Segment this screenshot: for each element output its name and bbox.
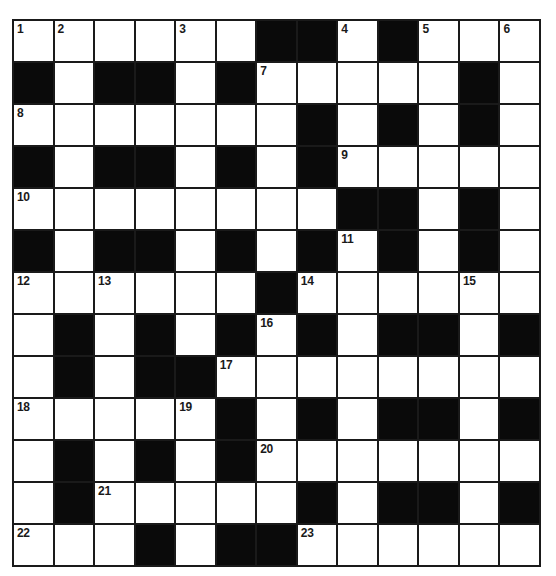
crossword-cell[interactable] <box>55 147 94 187</box>
crossword-cell[interactable] <box>338 357 377 397</box>
crossword-cell[interactable] <box>257 231 296 271</box>
crossword-cell[interactable]: 11 <box>338 231 377 271</box>
crossword-cell[interactable] <box>338 273 377 313</box>
crossword-cell[interactable] <box>500 189 539 229</box>
crossword-cell[interactable] <box>95 399 134 439</box>
crossword-cell[interactable] <box>257 357 296 397</box>
crossword-cell[interactable] <box>500 231 539 271</box>
crossword-cell[interactable] <box>95 21 134 61</box>
crossword-cell[interactable] <box>298 189 337 229</box>
crossword-cell[interactable]: 10 <box>14 189 53 229</box>
crossword-cell[interactable] <box>55 399 94 439</box>
crossword-cell[interactable]: 18 <box>14 399 53 439</box>
crossword-cell[interactable] <box>176 525 215 565</box>
crossword-cell[interactable] <box>176 315 215 355</box>
crossword-cell[interactable]: 12 <box>14 273 53 313</box>
crossword-cell[interactable] <box>176 441 215 481</box>
crossword-cell[interactable] <box>136 105 175 145</box>
crossword-cell[interactable] <box>460 441 499 481</box>
crossword-cell[interactable] <box>338 483 377 523</box>
crossword-cell[interactable] <box>55 525 94 565</box>
crossword-cell[interactable] <box>217 21 256 61</box>
crossword-cell[interactable] <box>338 399 377 439</box>
crossword-cell[interactable] <box>419 273 458 313</box>
crossword-cell[interactable] <box>55 273 94 313</box>
crossword-cell[interactable] <box>419 105 458 145</box>
crossword-cell[interactable] <box>136 21 175 61</box>
crossword-cell[interactable]: 6 <box>500 21 539 61</box>
crossword-cell[interactable] <box>14 357 53 397</box>
crossword-cell[interactable] <box>338 315 377 355</box>
crossword-cell[interactable] <box>338 441 377 481</box>
crossword-cell[interactable] <box>338 105 377 145</box>
crossword-cell[interactable] <box>419 189 458 229</box>
crossword-cell[interactable] <box>500 357 539 397</box>
crossword-cell[interactable] <box>460 21 499 61</box>
crossword-cell[interactable] <box>95 525 134 565</box>
crossword-cell[interactable]: 3 <box>176 21 215 61</box>
crossword-cell[interactable] <box>176 273 215 313</box>
crossword-cell[interactable] <box>298 63 337 103</box>
crossword-cell[interactable] <box>257 483 296 523</box>
crossword-cell[interactable] <box>14 441 53 481</box>
crossword-cell[interactable] <box>14 483 53 523</box>
crossword-cell[interactable] <box>14 315 53 355</box>
crossword-cell[interactable] <box>217 105 256 145</box>
crossword-cell[interactable] <box>217 273 256 313</box>
crossword-cell[interactable]: 14 <box>298 273 337 313</box>
crossword-cell[interactable]: 2 <box>55 21 94 61</box>
crossword-cell[interactable] <box>95 357 134 397</box>
crossword-cell[interactable]: 7 <box>257 63 296 103</box>
crossword-cell[interactable] <box>136 399 175 439</box>
crossword-cell[interactable] <box>460 357 499 397</box>
crossword-cell[interactable] <box>95 315 134 355</box>
crossword-cell[interactable] <box>257 399 296 439</box>
crossword-cell[interactable] <box>176 63 215 103</box>
crossword-cell[interactable] <box>176 231 215 271</box>
crossword-cell[interactable]: 17 <box>217 357 256 397</box>
crossword-cell[interactable] <box>460 399 499 439</box>
crossword-cell[interactable] <box>298 357 337 397</box>
crossword-cell[interactable] <box>176 105 215 145</box>
crossword-cell[interactable]: 15 <box>460 273 499 313</box>
crossword-cell[interactable]: 22 <box>14 525 53 565</box>
crossword-cell[interactable] <box>460 315 499 355</box>
crossword-cell[interactable] <box>460 483 499 523</box>
crossword-cell[interactable]: 23 <box>298 525 337 565</box>
crossword-cell[interactable] <box>379 357 418 397</box>
crossword-cell[interactable] <box>217 189 256 229</box>
crossword-cell[interactable] <box>298 441 337 481</box>
crossword-cell[interactable] <box>257 105 296 145</box>
crossword-cell[interactable] <box>500 273 539 313</box>
crossword-cell[interactable] <box>136 273 175 313</box>
crossword-cell[interactable] <box>95 441 134 481</box>
crossword-cell[interactable]: 8 <box>14 105 53 145</box>
crossword-cell[interactable]: 4 <box>338 21 377 61</box>
crossword-cell[interactable] <box>136 483 175 523</box>
crossword-cell[interactable] <box>379 441 418 481</box>
crossword-cell[interactable] <box>95 105 134 145</box>
crossword-cell[interactable] <box>55 231 94 271</box>
crossword-cell[interactable] <box>136 189 175 229</box>
crossword-cell[interactable]: 9 <box>338 147 377 187</box>
crossword-cell[interactable] <box>379 273 418 313</box>
crossword-cell[interactable] <box>379 525 418 565</box>
crossword-cell[interactable] <box>460 147 499 187</box>
crossword-cell[interactable] <box>55 189 94 229</box>
crossword-cell[interactable]: 5 <box>419 21 458 61</box>
crossword-cell[interactable] <box>500 105 539 145</box>
crossword-cell[interactable] <box>379 147 418 187</box>
crossword-cell[interactable] <box>257 189 296 229</box>
crossword-cell[interactable] <box>419 441 458 481</box>
crossword-cell[interactable] <box>176 483 215 523</box>
crossword-cell[interactable]: 16 <box>257 315 296 355</box>
crossword-cell[interactable] <box>500 63 539 103</box>
crossword-cell[interactable] <box>176 189 215 229</box>
crossword-cell[interactable]: 19 <box>176 399 215 439</box>
crossword-cell[interactable] <box>176 147 215 187</box>
crossword-cell[interactable] <box>379 63 418 103</box>
crossword-cell[interactable] <box>500 441 539 481</box>
crossword-cell[interactable]: 1 <box>14 21 53 61</box>
crossword-cell[interactable]: 13 <box>95 273 134 313</box>
crossword-cell[interactable] <box>338 63 377 103</box>
